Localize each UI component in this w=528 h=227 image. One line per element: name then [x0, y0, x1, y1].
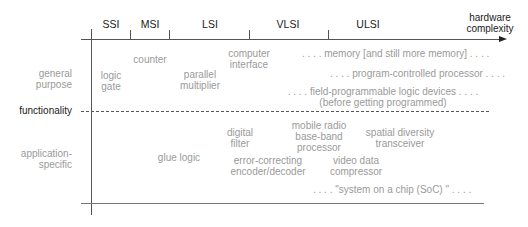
item-glue-logic: glue logic: [158, 152, 200, 163]
column-ulsi: ULSI: [356, 19, 379, 30]
item-computer-interface: computer interface: [228, 48, 270, 70]
item-memory: . . . . memory [and still more memory] .…: [302, 48, 489, 59]
x-axis-label: hardware complexity: [466, 12, 513, 34]
row-general-purpose: general purpose: [36, 68, 72, 90]
item-video-compressor: video data compressor: [330, 155, 382, 177]
horizontal-axis: [81, 39, 501, 40]
tick-ssi-msi: [130, 30, 131, 39]
item-parallel-multiplier: parallel multiplier: [180, 69, 220, 91]
item-processor: . . . . program-controlled processor . .…: [330, 68, 505, 79]
tick-lsi-vlsi: [249, 30, 250, 39]
bottom-axis: [81, 203, 484, 204]
item-logic-gate: logic gate: [101, 70, 122, 92]
item-counter: counter: [133, 54, 166, 65]
tick-vlsi-ulsi: [328, 30, 329, 39]
row-application-specific: application- specific: [21, 148, 72, 170]
item-mobile-radio: mobile radio base-band processor: [292, 120, 346, 153]
item-digital-filter: digital filter: [227, 127, 253, 149]
column-ssi: SSI: [103, 19, 120, 30]
axis-arrowhead-icon: [499, 36, 507, 42]
functionality-divider: [81, 111, 489, 112]
vertical-axis: [91, 29, 92, 215]
item-soc: . . . . "system on a chip (SoC) " . . . …: [313, 184, 471, 195]
item-error-correcting: error-correcting encoder/decoder: [230, 155, 305, 177]
column-vlsi: VLSI: [277, 19, 300, 30]
item-spatial-diversity: spatial diversity transceiver: [366, 127, 434, 149]
tick-msi-lsi: [169, 30, 170, 39]
y-axis-label: functionality: [19, 105, 72, 116]
column-msi: MSI: [141, 19, 160, 30]
column-lsi: LSI: [202, 19, 218, 30]
item-fpga: . . . . field-programmable logic devices…: [288, 86, 479, 108]
